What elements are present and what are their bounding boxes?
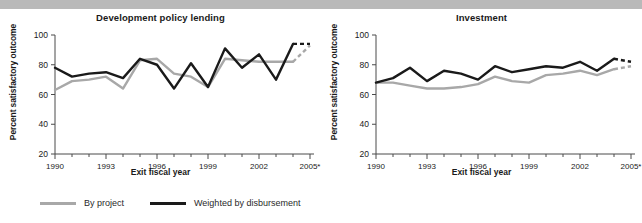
data-line-projected-by-project (614, 66, 631, 69)
y-tick-label: 80 (39, 60, 49, 70)
y-tick-label: 20 (360, 149, 370, 159)
plot-area-left: 20406080100199019931996199920022005* (0, 9, 321, 187)
data-line-projected-by-project (293, 45, 310, 61)
charts-container: Development policy lending Percent satis… (0, 9, 642, 187)
y-tick-label: 80 (360, 60, 370, 70)
legend: By project Weighted by disbursement (0, 192, 642, 214)
data-line-by-project (376, 69, 614, 88)
legend-item-by-project: By project (40, 198, 124, 208)
y-tick-label: 40 (39, 119, 49, 129)
legend-label-by-project: By project (84, 198, 124, 208)
legend-swatch-weighted-by-disbursement (150, 202, 186, 205)
y-tick-label: 100 (355, 30, 369, 40)
x-axis-label-left: Exit fiscal year (0, 167, 321, 177)
legend-item-weighted-by-disbursement: Weighted by disbursement (150, 198, 300, 208)
data-line-weighted-by-disbursement (55, 44, 293, 89)
chart-panel-development-policy-lending: Development policy lending Percent satis… (0, 9, 321, 187)
y-tick-label: 20 (39, 149, 49, 159)
legend-label-weighted-by-disbursement: Weighted by disbursement (194, 198, 300, 208)
y-tick-label: 60 (360, 90, 370, 100)
y-tick-label: 40 (360, 119, 370, 129)
legend-swatch-by-project (40, 202, 76, 205)
chart-panel-investment: Investment Percent satisfactory outcome … (321, 9, 642, 187)
top-divider-bar (0, 0, 642, 9)
plot-area-right: 20406080100199019931996199920022005* (321, 9, 642, 187)
x-axis-label-right: Exit fiscal year (321, 167, 642, 177)
y-tick-label: 60 (39, 90, 49, 100)
data-line-projected-weighted-by-disbursement (614, 59, 631, 62)
y-tick-label: 100 (34, 30, 48, 40)
